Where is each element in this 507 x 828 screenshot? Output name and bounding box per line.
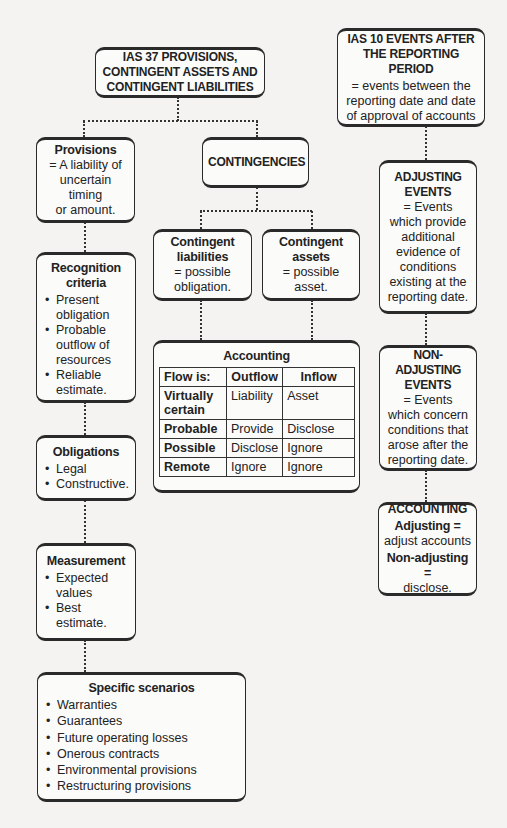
ias37-box: IAS 37 PROVISIONS, CONTINGENT ASSETS AND… <box>95 47 265 98</box>
header-inflow: Inflow <box>283 368 355 387</box>
connector-nonadjusting-accounting <box>425 470 427 502</box>
contingent-liabilities-desc-line: = possible <box>159 265 246 280</box>
contingent-assets-box: Contingent assets = possible asset. <box>262 229 360 301</box>
obligations-title: Obligations <box>42 445 130 460</box>
list-item: Reliable estimate. <box>42 368 130 398</box>
non-adjusting-desc-line: arose after the <box>385 438 471 453</box>
header-flow-is: Flow is: <box>160 368 227 387</box>
table-row: Virtually certain Liability Asset <box>160 387 355 420</box>
ias10-desc-line: = events between the <box>343 79 479 94</box>
contingent-liabilities-box: Contingent liabilities = possible obliga… <box>153 229 252 301</box>
adjusting-desc-line: existing at the <box>385 275 471 290</box>
contingent-liabilities-title-line: liabilities <box>159 250 246 265</box>
list-item: Environmental provisions <box>43 762 240 778</box>
non-adjusting-desc-line: conditions that <box>385 423 471 438</box>
ias37-title-line: CONTINGENT ASSETS AND <box>101 65 259 80</box>
adjusting-desc-line: which provide <box>385 215 471 230</box>
contingent-assets-desc-line: asset. <box>268 280 354 295</box>
non-adjusting-title-line: NON-ADJUSTING <box>385 348 471 378</box>
non-adjusting-events-box: NON-ADJUSTING EVENTS = Events which conc… <box>379 345 477 471</box>
provisions-desc-line: uncertain timing <box>42 173 129 203</box>
recognition-title-line: criteria <box>42 276 130 291</box>
table-row: Possible Disclose Ignore <box>160 439 355 458</box>
recognition-list: Present obligation Probable outflow of r… <box>42 293 130 398</box>
recognition-criteria-box: Recognition criteria Present obligation … <box>36 252 136 403</box>
list-item: Legal <box>42 462 130 477</box>
row-outflow: Provide <box>227 420 283 439</box>
adjusting-desc-line: evidence of <box>385 245 471 260</box>
connector-to-contingencies <box>256 121 258 137</box>
ias10-desc-line: reporting date and date <box>343 94 479 109</box>
provisions-box: Provisions = A liability of uncertain ti… <box>36 137 135 223</box>
list-item: Onerous contracts <box>43 746 240 762</box>
non-adjusting-desc-line: which concern <box>385 408 471 423</box>
connector-ias37-down <box>177 97 179 121</box>
list-item: Probable outflow of resources <box>42 323 130 368</box>
row-label: Probable <box>160 420 227 439</box>
adjusting-desc-line: conditions <box>385 260 471 275</box>
measurement-box: Measurement Expected values Best estimat… <box>36 543 136 641</box>
measurement-list: Expected values Best estimate. <box>42 571 130 631</box>
adjusting-desc-line: additional <box>385 230 471 245</box>
table-row: Probable Provide Disclose <box>160 420 355 439</box>
list-item: Guarantees <box>43 713 240 729</box>
contingent-assets-title-line: assets <box>268 250 354 265</box>
connector-adjusting-nonadjusting <box>425 313 427 345</box>
connector-to-provisions <box>83 121 85 137</box>
connector-to-contingent-assets <box>311 211 313 229</box>
non-adjusting-desc-line: reporting date. <box>385 453 471 468</box>
adjusting-title-line: ADJUSTING <box>385 170 471 185</box>
connector-provisions-recognition <box>84 222 86 252</box>
connector-to-contingent-liabilities <box>200 211 202 229</box>
adjusting-value: adjust accounts <box>384 534 471 549</box>
row-outflow: Liability <box>227 387 283 420</box>
ias10-title-line: IAS 10 EVENTS AFTER <box>343 32 479 47</box>
row-inflow: Asset <box>283 387 355 420</box>
connector-ias10-adjusting <box>425 126 427 160</box>
contingent-assets-title-line: Contingent <box>268 235 354 250</box>
non-adjusting-label: Non-adjusting = <box>384 551 471 581</box>
contingencies-title: CONTINGENCIES <box>208 155 303 170</box>
provisions-desc-line: = A liability of <box>42 158 129 173</box>
obligations-list: Legal Constructive. <box>42 462 130 492</box>
specific-scenarios-box: Specific scenarios Warranties Guarantees… <box>37 672 246 802</box>
adjusting-label: Adjusting = <box>384 519 471 534</box>
measurement-title: Measurement <box>42 554 130 569</box>
non-adjusting-value: disclose. <box>384 581 471 596</box>
contingencies-box: CONTINGENCIES <box>202 137 309 188</box>
list-item: Present obligation <box>42 293 130 323</box>
adjusting-events-box: ADJUSTING EVENTS = Events which provide … <box>379 160 477 314</box>
row-outflow: Ignore <box>227 458 283 477</box>
connector-ias37-branch <box>83 120 258 122</box>
contingent-liabilities-desc-line: obligation. <box>159 280 246 295</box>
ias37-title-line: CONTINGENT LIABILITIES <box>101 80 259 95</box>
obligations-box: Obligations Legal Constructive. <box>36 435 136 501</box>
adjusting-title-line: EVENTS <box>385 185 471 200</box>
list-item: Future operating losses <box>43 730 240 746</box>
list-item: Constructive. <box>42 477 130 492</box>
provisions-title: Provisions <box>42 143 129 158</box>
adjusting-desc-line: = Events <box>385 200 471 215</box>
table-row: Remote Ignore Ignore <box>160 458 355 477</box>
connector-contingencies-branch <box>200 210 312 212</box>
list-item: Best estimate. <box>42 601 130 631</box>
connector-liabilities-accounting <box>200 300 202 340</box>
contingent-liabilities-title-line: Contingent <box>159 235 246 250</box>
accounting-table-box: Accounting Flow is: Outflow Inflow Virtu… <box>153 340 360 493</box>
accounting-table: Flow is: Outflow Inflow Virtually certai… <box>159 367 355 477</box>
ias10-title-line: THE REPORTING PERIOD <box>343 47 479 77</box>
row-outflow: Disclose <box>227 439 283 458</box>
list-item: Restructuring provisions <box>43 778 240 794</box>
accounting-table-title: Accounting <box>159 349 354 364</box>
connector-assets-accounting <box>311 300 313 340</box>
row-inflow: Ignore <box>283 458 355 477</box>
connector-obligations-measurement <box>84 500 86 543</box>
ias10-accounting-title: ACCOUNTING <box>384 502 471 517</box>
contingent-assets-desc-line: = possible <box>268 265 354 280</box>
connector-measurement-scenarios <box>84 640 86 672</box>
list-item: Warranties <box>43 697 240 713</box>
adjusting-desc-line: reporting date. <box>385 290 471 305</box>
connector-contingencies-down <box>256 187 258 210</box>
row-label: Possible <box>160 439 227 458</box>
ias10-desc-line: of approval of accounts <box>343 109 479 124</box>
